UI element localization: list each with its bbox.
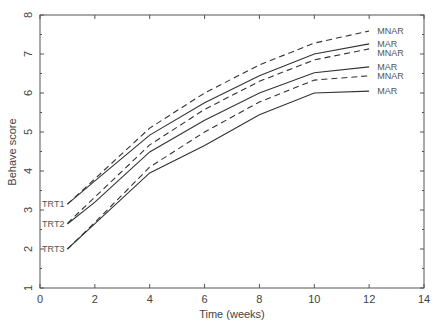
x-tick-label: 2	[92, 293, 98, 305]
x-axis-title: Time (weeks)	[199, 308, 265, 320]
labels-group: MNARMARMNARMARMNARMARTRT1TRT2TRT3	[42, 26, 404, 254]
series-line-trt3-mar	[67, 91, 369, 249]
y-tick-label: 6	[22, 90, 34, 96]
y-tick-label: 4	[22, 168, 34, 174]
series-group	[67, 31, 369, 249]
y-tick-label: 5	[22, 129, 34, 135]
series-end-label: MNAR	[377, 48, 404, 58]
group-start-label: TRT2	[42, 219, 64, 229]
axes: 0246810121412345678	[22, 12, 430, 305]
y-tick-label: 2	[22, 246, 34, 252]
series-end-label: MNAR	[377, 26, 404, 36]
y-tick-label: 7	[22, 51, 34, 57]
x-tick-label: 4	[147, 293, 153, 305]
series-end-label: MAR	[377, 86, 398, 96]
series-end-label: MNAR	[377, 71, 404, 81]
series-line-trt2-mnar	[67, 49, 369, 223]
series-line-trt1-mnar	[67, 31, 369, 204]
y-axis-title: Behave score	[6, 118, 18, 185]
y-tick-label: 3	[22, 207, 34, 213]
group-start-label: TRT1	[42, 199, 64, 209]
y-tick-label: 1	[22, 285, 34, 291]
x-tick-label: 6	[202, 293, 208, 305]
x-tick-label: 8	[256, 293, 262, 305]
y-tick-label: 8	[22, 12, 34, 18]
x-tick-label: 10	[308, 293, 320, 305]
series-line-trt2-mar	[67, 67, 369, 224]
plot-frame	[40, 15, 424, 288]
x-tick-label: 0	[37, 293, 43, 305]
line-chart: 0246810121412345678 MNARMARMNARMARMNARMA…	[0, 0, 441, 333]
x-tick-label: 12	[363, 293, 375, 305]
x-tick-label: 14	[418, 293, 430, 305]
group-start-label: TRT3	[42, 244, 64, 254]
